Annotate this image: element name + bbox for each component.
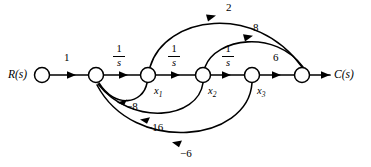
arrowhead-x2-to-x3	[222, 71, 231, 78]
edge-arc-x2-to-n2-gain-16	[98, 83, 203, 113]
gain-label-x2-to-x3: 1 s	[222, 44, 234, 68]
gain-n2-x1-denominator: s	[113, 57, 125, 68]
arrowhead-x3-to-C	[272, 71, 281, 78]
node-label-x3-sub: 3	[262, 90, 266, 99]
gain-n2-x1-numerator: 1	[113, 44, 125, 55]
node-x1	[141, 68, 156, 83]
input-label-Rs: R(s)	[8, 69, 27, 81]
gain-x1-x2-numerator: 1	[168, 44, 180, 55]
node-C-output	[295, 68, 310, 83]
gain-label-x2-to-C: 8	[253, 22, 259, 33]
node-label-x1: x1	[154, 86, 162, 99]
gain-x1-x2-denominator: s	[168, 57, 180, 68]
gain-label-x1-to-C: 2	[226, 2, 232, 13]
gain-label-x3-to-C: 6	[273, 52, 279, 63]
arrowhead-R-to-n2	[67, 71, 76, 78]
node-x3	[245, 68, 260, 83]
node-x2	[196, 68, 211, 83]
node-R-source	[35, 68, 50, 83]
gain-label-x1-to-n2: −8	[126, 101, 138, 112]
gain-label-x2-to-n2: −16	[146, 122, 163, 133]
node-label-x2: x2	[208, 86, 216, 99]
edge-arc-x2-to-C-gain8	[205, 42, 303, 67]
node-label-x2-sub: 2	[213, 90, 217, 99]
gain-label-x1-to-x2: 1 s	[168, 44, 180, 68]
edge-arc-x3-to-n2-gain-6	[97, 83, 252, 133]
node-label-x3: x3	[257, 86, 265, 99]
gain-label-x3-to-n2: −6	[180, 148, 192, 159]
arrowhead-x1-to-C-gain2	[206, 14, 216, 21]
arrowhead-x2-to-C-gain8	[243, 34, 253, 41]
graph-canvas	[0, 0, 371, 167]
gain-label-n2-to-x1: 1 s	[113, 44, 125, 68]
gain-label-R-to-n2: 1	[64, 52, 70, 63]
gain-x2-x3-denominator: s	[222, 57, 234, 68]
output-label-Cs: C(s)	[334, 69, 354, 81]
node-summing-junction	[89, 68, 104, 83]
arrowhead-C-output	[321, 71, 330, 78]
arrowhead-x1-to-x2	[171, 71, 180, 78]
gain-x2-x3-numerator: 1	[222, 44, 234, 55]
arrowhead-n2-to-x1	[119, 71, 128, 78]
signal-flow-graph-figure: R(s) C(s) x1 x2 x3 1 1 s 1 s 1 s 6 2 8 −…	[0, 0, 371, 167]
node-label-x1-sub: 1	[159, 90, 163, 99]
